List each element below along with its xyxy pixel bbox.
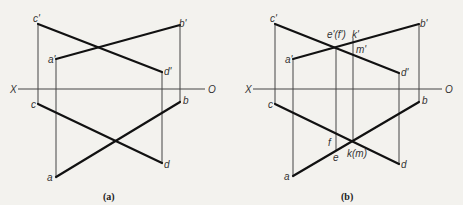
label-k-prime: k' bbox=[352, 29, 360, 40]
label-b-prime: b' bbox=[179, 18, 188, 29]
panel-a bbox=[18, 24, 205, 177]
label-b-prime: b' bbox=[420, 18, 429, 29]
label-axis-o: O bbox=[445, 84, 453, 95]
line-a-b bbox=[56, 102, 180, 177]
label-axis-x: X bbox=[9, 84, 17, 95]
label-c-prime: c' bbox=[33, 13, 41, 24]
label-d-prime: d' bbox=[401, 67, 410, 78]
label-d: d bbox=[164, 159, 170, 170]
caption-a: (a) bbox=[103, 191, 115, 203]
label-f: f bbox=[328, 137, 332, 148]
label-e: e bbox=[333, 152, 339, 163]
caption-b: (b) bbox=[341, 191, 353, 203]
projection-diagram: c' a' d' b' X O c b d a (a) c' a' d' b' … bbox=[0, 0, 463, 205]
label-c-prime: c' bbox=[270, 13, 278, 24]
label-e-prime-f-prime: e'(f') bbox=[327, 29, 346, 40]
label-axis-o: O bbox=[208, 84, 216, 95]
label-m-prime: m' bbox=[356, 44, 367, 55]
line-c-d bbox=[38, 104, 162, 163]
label-b: b bbox=[422, 95, 428, 106]
label-a-prime: a' bbox=[48, 54, 57, 65]
label-a: a bbox=[284, 171, 290, 182]
label-axis-x: X bbox=[244, 84, 252, 95]
label-k-m: k(m) bbox=[347, 148, 367, 159]
label-c: c bbox=[31, 99, 36, 110]
label-a: a bbox=[47, 172, 53, 183]
label-d: d bbox=[401, 159, 407, 170]
label-b: b bbox=[183, 95, 189, 106]
label-a-prime: a' bbox=[285, 54, 294, 65]
label-c: c bbox=[268, 99, 273, 110]
label-d-prime: d' bbox=[164, 66, 173, 77]
